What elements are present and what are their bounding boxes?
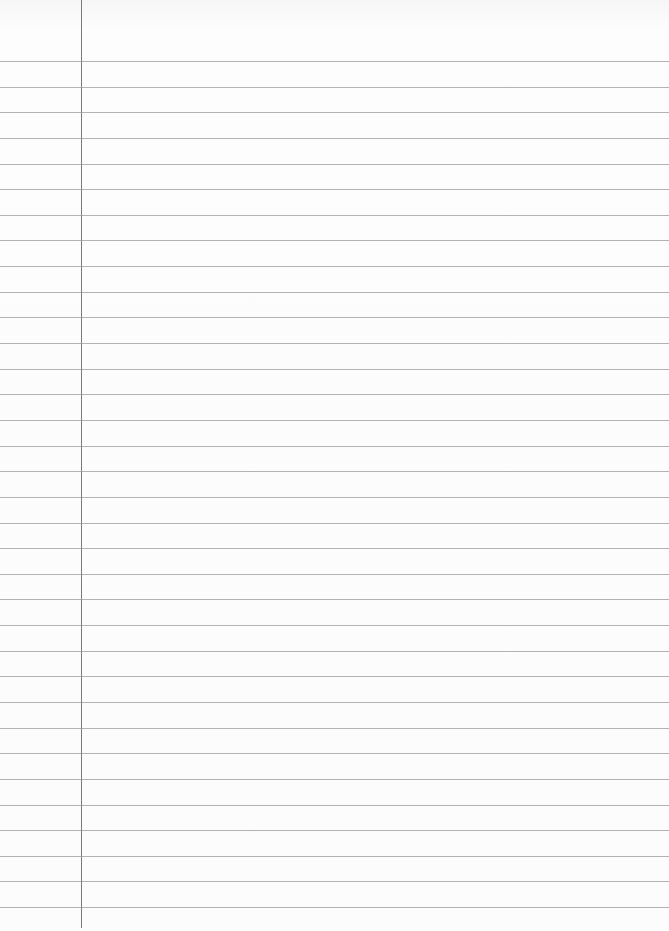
ruled-line — [0, 61, 669, 62]
ruled-line — [0, 87, 669, 88]
ruled-line — [0, 420, 669, 421]
ruled-line — [0, 830, 669, 831]
ruled-line — [0, 164, 669, 165]
ruled-line — [0, 907, 669, 908]
ruled-line — [0, 112, 669, 113]
ruled-line — [0, 292, 669, 293]
margin-line — [81, 0, 82, 928]
ruled-line — [0, 548, 669, 549]
ruled-line — [0, 676, 669, 677]
ruled-line — [0, 240, 669, 241]
ruled-line — [0, 728, 669, 729]
ruled-line — [0, 523, 669, 524]
ruled-line — [0, 881, 669, 882]
ruled-line — [0, 266, 669, 267]
ruled-line — [0, 651, 669, 652]
ruled-line — [0, 779, 669, 780]
ruled-line — [0, 317, 669, 318]
ruled-line — [0, 497, 669, 498]
ruled-line — [0, 856, 669, 857]
ruled-line — [0, 702, 669, 703]
ruled-line — [0, 599, 669, 600]
ruled-line — [0, 753, 669, 754]
ruled-line — [0, 215, 669, 216]
ruled-line — [0, 394, 669, 395]
ruled-line — [0, 189, 669, 190]
ruled-line — [0, 574, 669, 575]
ruled-line — [0, 369, 669, 370]
ruled-line — [0, 805, 669, 806]
ruled-line — [0, 471, 669, 472]
ruled-line — [0, 625, 669, 626]
lined-paper — [0, 0, 669, 931]
ruled-line — [0, 138, 669, 139]
ruled-line — [0, 446, 669, 447]
ruled-line — [0, 343, 669, 344]
